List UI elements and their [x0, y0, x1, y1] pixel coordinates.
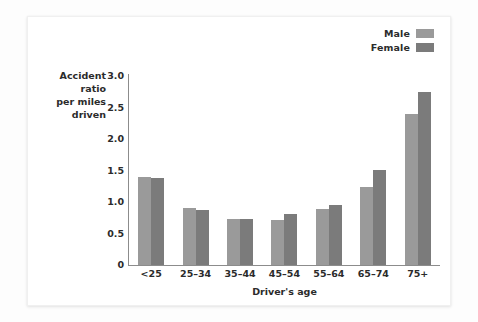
bar-female	[418, 92, 431, 265]
bar-female	[196, 210, 209, 265]
bar-group	[183, 76, 209, 265]
x-tick-label: 55–64	[307, 269, 351, 279]
bar-group	[271, 76, 297, 265]
y-tick-label: 1.0	[28, 197, 124, 207]
bar-male	[360, 187, 373, 265]
bars-area	[129, 76, 440, 265]
y-tick-label: 0.5	[28, 229, 124, 239]
bar-male	[183, 208, 196, 265]
y-tick-label: 2.0	[28, 134, 124, 144]
x-tick-label: 45–54	[262, 269, 306, 279]
x-axis-line	[128, 265, 440, 266]
x-tick-label: <25	[129, 269, 173, 279]
plot-area: Accident ratio per miles driven 3.02.52.…	[28, 17, 452, 307]
bar-group	[405, 76, 431, 265]
y-tick-label: 1.5	[28, 166, 124, 176]
y-tick-label: 3.0	[28, 71, 124, 81]
bar-male	[227, 219, 240, 265]
x-axis-title: Driver's age	[129, 287, 440, 297]
bar-group	[360, 76, 386, 265]
bar-female	[240, 219, 253, 265]
x-tick-label: 75+	[396, 269, 440, 279]
bar-group	[138, 76, 164, 265]
x-tick-label: 35–44	[218, 269, 262, 279]
y-axis-ticks: 3.02.52.01.51.00.50	[28, 17, 124, 307]
x-tick-label: 65–74	[351, 269, 395, 279]
bar-group	[316, 76, 342, 265]
y-tick-label: 2.5	[28, 103, 124, 113]
x-axis-ticks: <2525–3435–4445–5455–6465–7475+	[129, 269, 440, 279]
y-tick-label: 0	[28, 260, 124, 270]
bar-group	[227, 76, 253, 265]
bar-female	[151, 178, 164, 265]
bar-male	[405, 114, 418, 265]
bar-male	[316, 209, 329, 265]
bar-female	[284, 214, 297, 265]
bar-female	[329, 205, 342, 265]
bar-male	[271, 220, 284, 265]
bar-male	[138, 177, 151, 265]
bar-female	[373, 170, 386, 265]
x-tick-label: 25–34	[174, 269, 218, 279]
chart-card: Male Female Accident ratio per miles dri…	[27, 16, 451, 306]
figure-root: Male Female Accident ratio per miles dri…	[0, 0, 478, 322]
